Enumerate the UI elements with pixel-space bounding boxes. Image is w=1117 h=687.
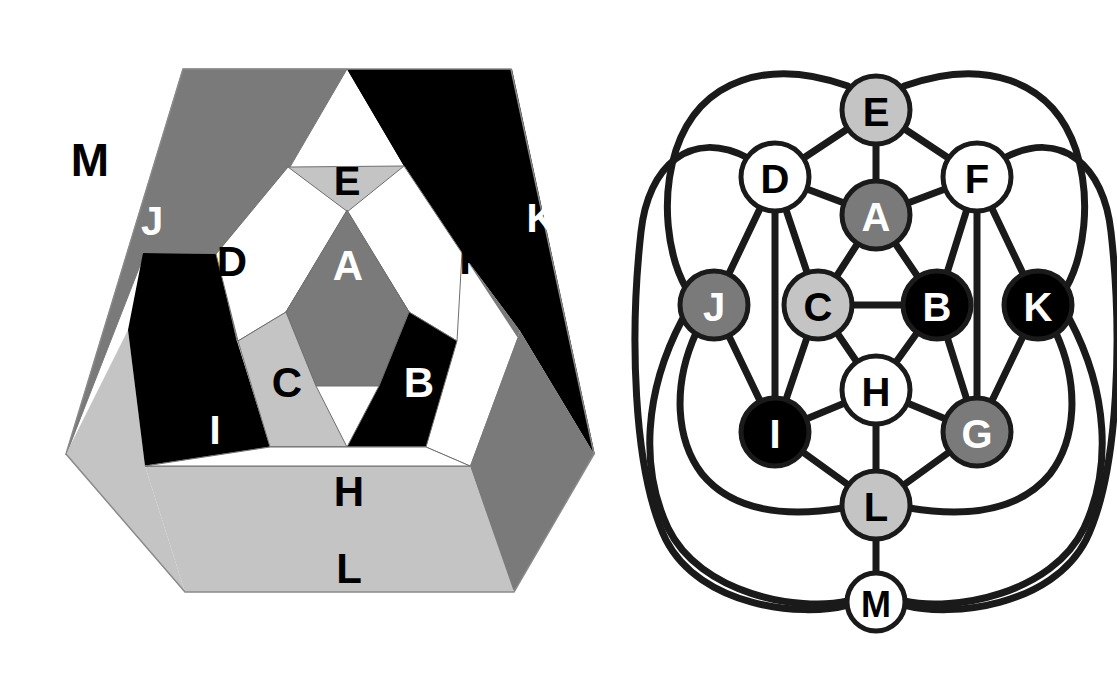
edge-B-H[interactable] <box>876 305 937 390</box>
label-D: D <box>217 238 247 285</box>
label-B: B <box>404 359 434 406</box>
node-label-E: E <box>863 90 890 134</box>
curve-J-M[interactable] <box>650 320 848 604</box>
label-H: H <box>334 468 364 515</box>
curve-K-M[interactable] <box>904 320 1102 604</box>
figure-canvas: M J K E D F A C B I G H L <box>0 0 1117 687</box>
label-M: M <box>71 134 109 186</box>
node-label-J: J <box>703 285 725 329</box>
node-A[interactable]: A <box>842 181 910 249</box>
node-label-A: A <box>862 195 891 239</box>
label-L: L <box>336 545 362 592</box>
straight-edges <box>714 110 1038 602</box>
node-label-D: D <box>761 157 790 201</box>
edge-H-G[interactable] <box>876 390 977 432</box>
edge-D-C[interactable] <box>775 177 818 305</box>
node-K[interactable]: K <box>1004 271 1072 339</box>
label-I: I <box>209 408 220 452</box>
node-label-M: M <box>861 584 891 625</box>
edge-G-L[interactable] <box>876 432 977 505</box>
node-label-G: G <box>961 412 992 456</box>
edge-A-B[interactable] <box>876 215 937 305</box>
curve-J-L[interactable] <box>680 333 843 512</box>
edge-C-H[interactable] <box>818 305 876 390</box>
edge-D-J[interactable] <box>714 177 775 305</box>
node-label-F: F <box>965 157 989 201</box>
node-F[interactable]: F <box>943 143 1011 211</box>
node-M[interactable]: M <box>847 573 905 631</box>
label-A: A <box>333 242 363 289</box>
left-panel-schlegel-map: M J K E D F A C B I G H L <box>0 0 600 687</box>
edge-D-A[interactable] <box>775 177 876 215</box>
edge-E-D[interactable] <box>775 110 876 177</box>
label-J: J <box>141 199 163 243</box>
label-C: C <box>272 359 302 406</box>
node-label-I: I <box>769 412 780 456</box>
edge-I-L[interactable] <box>775 432 876 505</box>
edge-A-C[interactable] <box>818 215 876 305</box>
curve-E-K[interactable] <box>904 74 1085 288</box>
node-B[interactable]: B <box>903 271 971 339</box>
face-L[interactable] <box>145 466 514 592</box>
node-E[interactable]: E <box>842 76 910 144</box>
edge-J-I[interactable] <box>714 305 775 432</box>
schlegel-svg: M J K E D F A C B I G H L <box>0 0 600 687</box>
edge-B-G[interactable] <box>937 305 977 432</box>
curve-F-M[interactable] <box>904 148 1117 610</box>
node-label-H: H <box>862 370 891 414</box>
edge-H-I[interactable] <box>775 390 876 432</box>
label-K: K <box>527 196 556 240</box>
node-label-C: C <box>804 285 833 329</box>
curve-K-L[interactable] <box>909 333 1072 512</box>
label-F: F <box>459 236 485 283</box>
node-I[interactable]: I <box>741 398 809 466</box>
edge-F-B[interactable] <box>937 177 977 305</box>
edge-F-A[interactable] <box>876 177 977 215</box>
graph-nodes: E D F A J C B <box>680 76 1072 631</box>
node-C[interactable]: C <box>784 271 852 339</box>
node-D[interactable]: D <box>741 143 809 211</box>
node-J[interactable]: J <box>680 271 748 339</box>
edge-E-F[interactable] <box>876 110 977 177</box>
node-label-B: B <box>923 285 952 329</box>
node-G[interactable]: G <box>943 398 1011 466</box>
curve-E-J[interactable] <box>667 74 848 288</box>
edge-F-K[interactable] <box>977 177 1038 305</box>
curve-D-M[interactable] <box>635 148 848 610</box>
node-L[interactable]: L <box>842 471 910 539</box>
label-G: G <box>448 407 479 451</box>
edge-C-I[interactable] <box>775 305 818 432</box>
edge-K-G[interactable] <box>977 305 1038 432</box>
curved-edges <box>635 74 1117 610</box>
label-E: E <box>334 159 361 203</box>
node-label-L: L <box>864 485 888 529</box>
node-H[interactable]: H <box>842 356 910 424</box>
node-label-K: K <box>1024 285 1053 329</box>
